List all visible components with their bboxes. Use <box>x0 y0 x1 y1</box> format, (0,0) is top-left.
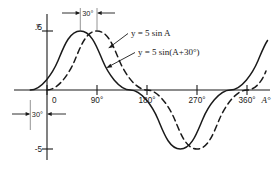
axis-labels-group: y 5 -5 0 90° 180° 270° 360° A° <box>35 20 271 154</box>
bottom-dim-left-arrow <box>26 112 31 116</box>
callout-sin-a-plus-30: y = 5 sin(A+30°) <box>106 47 199 68</box>
bottom-dim-right-arrow <box>47 112 52 116</box>
y-tick-label-5: 5 <box>37 23 42 32</box>
x-axis-label: A° <box>260 95 270 105</box>
x-tick-label-180: 180° <box>139 96 156 105</box>
label-sin-a: y = 5 sin A <box>131 28 171 38</box>
y-tick-label-minus5: -5 <box>35 145 43 154</box>
top-dim-right-arrow <box>97 11 102 15</box>
label-sin-a-plus-30: y = 5 sin(A+30°) <box>138 47 200 57</box>
x-tick-label-360: 360° <box>239 96 256 105</box>
top-dim-left-arrow <box>76 11 81 15</box>
bottom-dimension-label: 30° <box>32 110 43 119</box>
top-dimension-group: 30° <box>62 8 115 30</box>
sine-graph-figure: 30° 30° y = 5 sin A y = 5 sin(A+30°) y 5 <box>0 0 277 172</box>
x-tick-label-270: 270° <box>189 96 206 105</box>
x-tick-label-0: 0 <box>52 96 57 105</box>
top-dimension-label: 30° <box>82 9 93 18</box>
callout-sin-a: y = 5 sin A <box>108 28 171 48</box>
x-tick-label-90: 90° <box>91 96 103 105</box>
graph-canvas: 30° 30° y = 5 sin A y = 5 sin(A+30°) y 5 <box>0 0 277 172</box>
leader-arrow-sin-a-plus-30 <box>106 64 112 68</box>
bottom-dimension-group: 30° <box>12 100 66 130</box>
